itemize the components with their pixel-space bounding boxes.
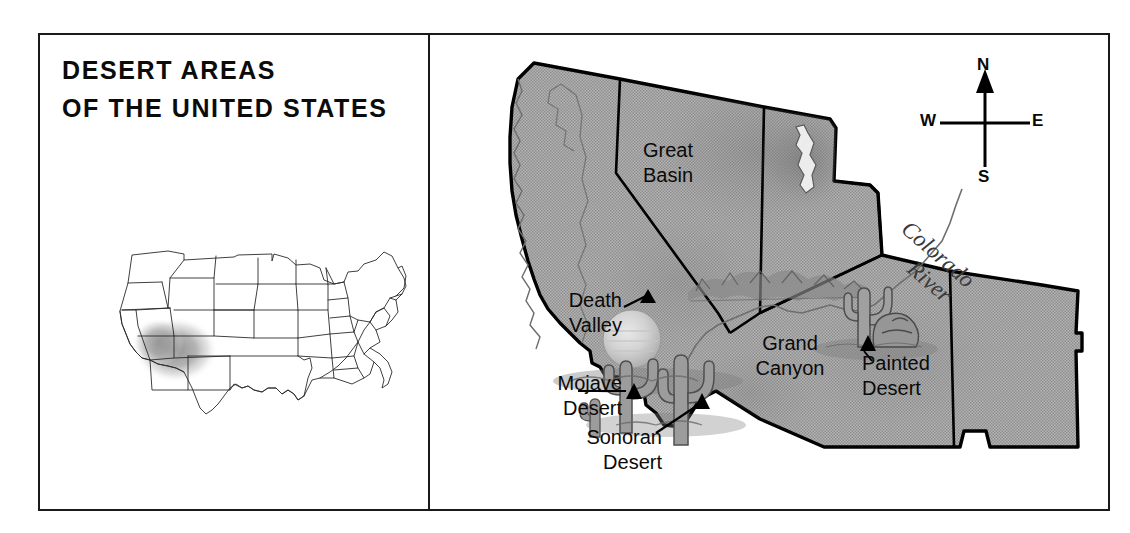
compass-needle-icon — [940, 69, 1030, 167]
label-sonoran-desert: Sonoran Desert — [512, 425, 662, 475]
compass-north-label: N — [977, 55, 989, 75]
left-panel: DESERT AREAS OF THE UNITED STATES — [38, 33, 430, 511]
label-grand-canyon: Grand Canyon — [720, 331, 860, 381]
label-great-basin: Great Basin — [608, 138, 728, 188]
title-line-1: DESERT AREAS — [62, 51, 412, 89]
label-mojave-desert: Mojave Desert — [490, 371, 622, 421]
compass-rose: N S W E — [920, 55, 1050, 190]
compass-east-label: E — [1032, 111, 1043, 131]
figure-title: DESERT AREAS OF THE UNITED STATES — [62, 51, 412, 127]
right-panel: Colorado River Great Basin Death Valley … — [430, 33, 1110, 511]
inset-highlight-region — [132, 317, 218, 383]
inset-us-map — [58, 238, 413, 423]
compass-west-label: W — [920, 111, 936, 131]
map-figure: DESERT AREAS OF THE UNITED STATES — [0, 0, 1130, 533]
great-salt-lake — [756, 111, 852, 211]
title-line-2: OF THE UNITED STATES — [62, 89, 412, 127]
label-painted-desert: Painted Desert — [862, 351, 997, 401]
label-death-valley: Death Valley — [512, 288, 622, 338]
compass-south-label: S — [978, 167, 989, 187]
